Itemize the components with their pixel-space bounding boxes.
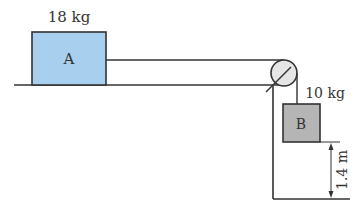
block-a-label: A (63, 50, 75, 68)
arrow-up-icon (329, 143, 334, 150)
pulley-diagram: A 18 kg B 10 kg 1.4 m (0, 0, 356, 219)
pulley (271, 60, 297, 86)
height-label: 1.4 m (334, 150, 350, 190)
block-a-mass: 18 kg (48, 8, 91, 26)
arrow-down-icon (329, 191, 334, 198)
block-b-label: B (296, 116, 306, 132)
block-b-mass: 10 kg (305, 85, 345, 101)
